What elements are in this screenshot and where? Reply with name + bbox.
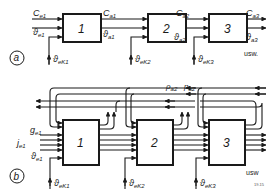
label-theta-a1: ϑa1 [103, 29, 115, 40]
block-a2-label: 2 [162, 22, 170, 36]
figure-number: 19.15 [254, 182, 265, 187]
block-b1-label: 1 [77, 136, 84, 150]
label-c-a1: Ca1 [103, 8, 116, 19]
part-a: 1 2 3 Ce1 ϑe1 Ca1 ϑa1 Ca2 ϑa2 Ca3 ϑa3 [10, 8, 266, 65]
label-theta-ek3: ϑeK3 [198, 54, 214, 65]
block-b3-label: 3 [223, 136, 230, 150]
feedback-line-inner [56, 94, 266, 123]
label-theta-a3: ϑa3 [246, 32, 258, 43]
continuation-b: usw [246, 169, 259, 176]
label-rho-a2: ρa2 [165, 82, 178, 92]
feedback-into-3b [203, 94, 208, 123]
label-theta-e1-b: ϑe1 [31, 151, 43, 162]
tag-a: a [14, 52, 20, 63]
label-p-a2: pa2 [183, 82, 196, 92]
label-theta-e1: ϑe1 [33, 27, 45, 38]
loop-line-1a [99, 112, 108, 125]
loop-line-2b [173, 112, 188, 129]
block-b2-label: 2 [150, 136, 158, 150]
block-a3-label: 3 [224, 22, 231, 36]
loop-line-1b [99, 112, 114, 129]
label-c-e1: Ce1 [33, 8, 46, 19]
label-theta-ek2-b: ϑeK2 [129, 178, 145, 189]
label-c-a2: Ca2 [176, 8, 190, 19]
label-theta-ek1-b: ϑeK1 [54, 178, 70, 189]
block-diagram: 1 2 3 Ce1 ϑe1 Ca1 ϑa1 Ca2 ϑa2 Ca3 ϑa3 [0, 0, 268, 190]
loop-line-2a [173, 112, 182, 125]
feedback-into-2b [131, 94, 136, 123]
tag-b: b [14, 171, 20, 182]
label-g-e1: ge1 [30, 125, 42, 136]
label-theta-ek1: ϑeK1 [53, 54, 69, 65]
part-b: 1 2 3 [10, 82, 266, 189]
block-a1-label: 1 [78, 22, 85, 36]
label-j-e1: je1 [16, 138, 26, 149]
continuation-a: usw. [244, 50, 258, 57]
label-theta-ek3-b: ϑeK3 [200, 178, 216, 189]
label-c-a3: Ca3 [246, 8, 260, 19]
label-theta-ek2: ϑeK2 [135, 54, 151, 65]
